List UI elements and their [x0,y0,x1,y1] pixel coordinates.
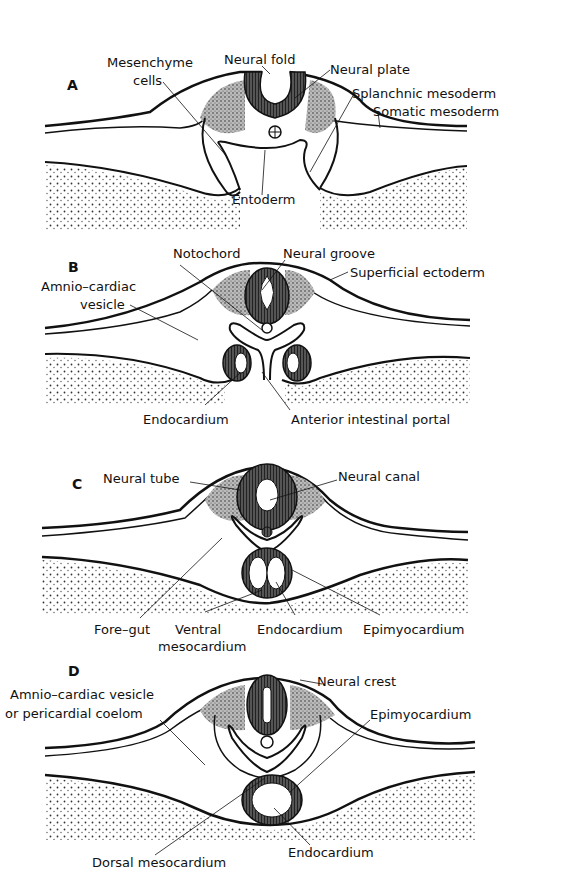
panel-b: B Notochord Neural groove Amnio–cardiac … [0,230,562,440]
panel-letter-a: A [67,77,78,93]
label-cells: cells [133,73,162,88]
label-epimyocardium: Epimyocardium [370,707,471,722]
label-endocardium: Endocardium [257,622,343,637]
panel-d: D Neural crest Amnio–cardiac vesicle or … [0,660,562,883]
label-neural-crest: Neural crest [317,674,396,689]
panel-letter-b: B [68,259,79,275]
label-neural-tube: Neural tube [103,471,180,486]
panel-letter-d: D [68,663,80,679]
label-neural-plate: Neural plate [330,62,410,77]
section-b-drawing [0,230,562,440]
label-entoderm: Entoderm [232,192,296,207]
label-neural-groove: Neural groove [283,246,375,261]
label-mesenchyme: Mesenchyme [107,55,193,70]
label-epimyocardium: Epimyocardium [363,622,464,637]
label-amnio-cardiac-vesicle: Amnio–cardiac vesicle [10,687,154,702]
label-endocardium: Endocardium [288,845,374,860]
label-neural-fold: Neural fold [224,52,295,67]
panel-letter-c: C [72,476,82,492]
label-endocardium: Endocardium [143,412,229,427]
label-ventral-1: Ventral [175,622,221,637]
label-notochord: Notochord [173,246,240,261]
label-superficial-ectoderm: Superficial ectoderm [350,265,485,280]
label-anterior-intestinal-portal: Anterior intestinal portal [291,412,450,427]
panel-a: A Mesenchyme cells Neural fold Neural pl… [0,0,562,230]
label-ventral-2: mesocardium [158,639,246,654]
label-pericardial-coelom: or pericardial coelom [5,706,143,721]
label-neural-canal: Neural canal [338,469,420,484]
label-amnio-cardiac-2: vesicle [80,297,125,312]
label-fore-gut: Fore–gut [94,622,150,637]
label-amnio-cardiac-1: Amnio–cardiac [41,279,136,294]
label-dorsal-mesocardium: Dorsal mesocardium [92,855,226,870]
label-splanchnic-mesoderm: Splanchnic mesoderm [352,86,496,101]
panel-c: C Neural tube Neural canal Fore–gut Vent… [0,440,562,660]
label-somatic-mesoderm: Somatic mesoderm [373,104,499,119]
